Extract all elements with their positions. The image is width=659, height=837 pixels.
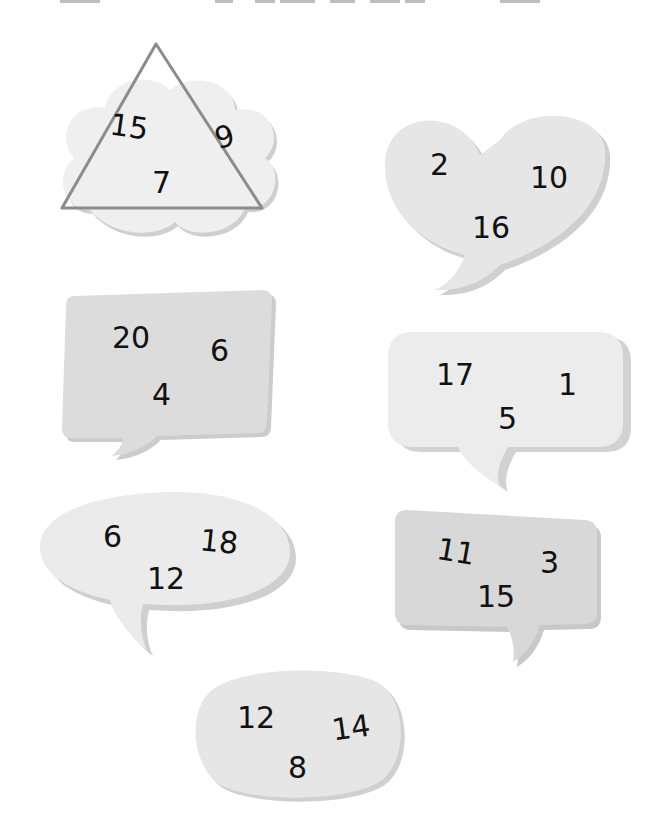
tilted-speech-bubble: 11 3 15 (395, 510, 610, 670)
number: 7 (152, 168, 171, 198)
number: 15 (108, 109, 150, 144)
number: 10 (530, 163, 568, 193)
number: 5 (498, 404, 517, 434)
oval-speech-bubble: 6 18 12 (35, 492, 300, 652)
number: 18 (199, 525, 240, 559)
number: 2 (430, 150, 449, 180)
rounded-speech-bubble: 17 1 5 (388, 332, 628, 492)
number: 12 (237, 703, 275, 733)
number: 12 (147, 564, 185, 594)
heart-speech-bubble: 2 10 16 (380, 105, 620, 300)
number: 20 (112, 323, 150, 353)
number: 1 (558, 370, 577, 400)
number: 17 (436, 360, 474, 390)
number: 8 (288, 753, 307, 783)
number: 15 (477, 582, 515, 612)
number: 16 (472, 213, 510, 243)
square-speech-bubble: 20 6 4 (62, 288, 282, 458)
number: 14 (330, 710, 372, 745)
number: 6 (210, 336, 229, 366)
cropped-header-text (0, 0, 659, 6)
cloud-shape: 15 9 7 (50, 40, 290, 240)
oval-shape: 12 14 8 (192, 665, 407, 805)
number: 11 (435, 534, 478, 570)
number: 3 (540, 548, 559, 578)
number: 4 (152, 380, 171, 410)
number: 6 (103, 522, 122, 552)
